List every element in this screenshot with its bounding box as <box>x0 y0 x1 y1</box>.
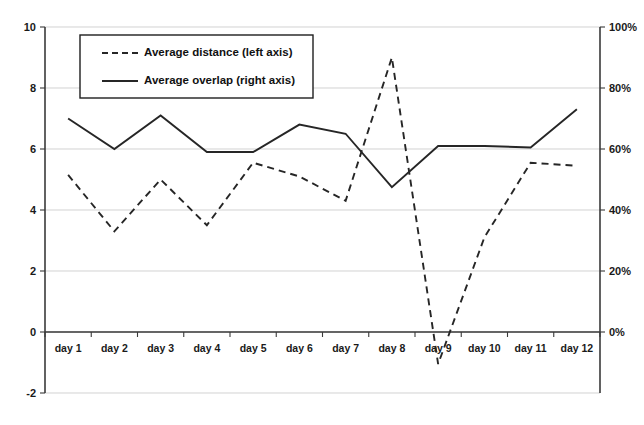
category-axis-label: day 12 <box>561 342 594 354</box>
category-axis-label: day 1 <box>55 342 82 354</box>
legend-box <box>80 35 313 98</box>
left-axis-tick-label: 10 <box>24 21 36 33</box>
category-axis-label: day 11 <box>515 342 547 354</box>
right-axis-tick-label: 0% <box>609 326 625 338</box>
left-axis-tick-label: 8 <box>30 82 36 94</box>
category-axis-label: day 6 <box>286 342 313 354</box>
series-line-average-distance <box>68 58 577 365</box>
right-axis-tick-label: 60% <box>609 143 631 155</box>
category-axis-label: day 10 <box>468 342 501 354</box>
legend-entry-label: Average distance (left axis) <box>144 46 293 58</box>
series-line-average-overlap <box>68 109 577 187</box>
left-axis-tick-label: 0 <box>30 326 36 338</box>
category-axis-label: day 8 <box>378 342 405 354</box>
right-axis-tick-label: 20% <box>609 265 631 277</box>
series-plot-area <box>68 58 577 365</box>
chart-legend: Average distance (left axis)Average over… <box>80 35 313 98</box>
left-axis-tick-label: 2 <box>30 265 36 277</box>
left-axis-tick-label: 4 <box>30 204 37 216</box>
left-axis-tick-label: -2 <box>26 387 36 399</box>
category-axis-label: day 9 <box>425 342 452 354</box>
left-value-axis: -20246810 <box>24 21 45 399</box>
category-axis-label: day 4 <box>193 342 220 354</box>
legend-entry-label: Average overlap (right axis) <box>144 74 295 86</box>
right-axis-tick-label: 40% <box>609 204 631 216</box>
line-chart: -20246810 0%20%40%60%80%100% day 1day 2d… <box>0 0 644 425</box>
right-axis-tick-label: 80% <box>609 82 631 94</box>
category-axis-label: day 7 <box>332 342 359 354</box>
category-axis-label: day 5 <box>240 342 267 354</box>
category-axis-label: day 3 <box>147 342 174 354</box>
right-percent-axis: 0%20%40%60%80%100% <box>600 21 637 393</box>
chart-container: -20246810 0%20%40%60%80%100% day 1day 2d… <box>0 0 644 425</box>
category-axis: day 1day 2day 3day 4day 5day 6day 7day 8… <box>45 332 600 354</box>
left-axis-tick-label: 6 <box>30 143 36 155</box>
category-axis-label: day 2 <box>101 342 128 354</box>
right-axis-tick-label: 100% <box>609 21 637 33</box>
